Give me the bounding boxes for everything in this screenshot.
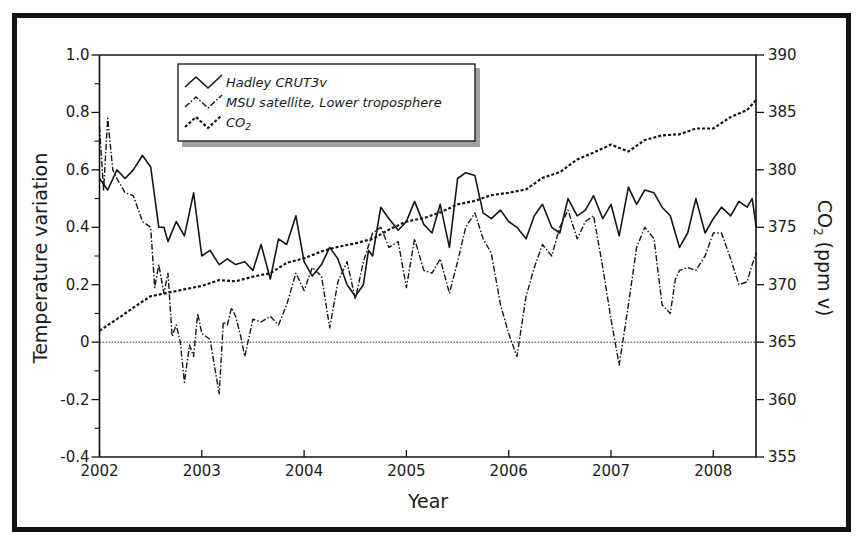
y2-tick-label: 360 [768,391,797,409]
y2-label-subscript: 2 [811,228,825,236]
y-tick-label: 0 [80,333,90,351]
y-tick-label: 0.8 [66,103,90,121]
legend: Hadley CRUT3vMSU satellite, Lower tropos… [178,64,475,141]
x-tick-label: 2006 [490,462,528,480]
y-tick-label: 0.6 [66,161,90,179]
x-tick-label: 2004 [285,462,323,480]
chart: -0.4-0.200.20.40.60.81.03553603653703753… [0,0,860,544]
legend-label: Hadley CRUT3v [226,75,327,90]
y2-label-units: (ppm v) [814,236,836,317]
y2-tick-label: 385 [768,103,797,121]
series-msu-satellite-lower-troposphere [100,118,757,394]
x-tick-label: 2003 [183,462,221,480]
y2-tick-label: 370 [768,276,797,294]
x-tick-label: 2007 [592,462,630,480]
x-axis-title: Year [407,490,448,512]
y-tick-label: 0.2 [66,276,90,294]
x-tick-label: 2005 [387,462,425,480]
y-axis-title: Temperature variation [29,153,51,364]
y2-tick-label: 390 [768,46,797,64]
y-tick-label: 0.4 [66,218,90,236]
legend-label: MSU satellite, Lower troposphere [226,95,442,110]
y2-axis-title: CO2 (ppm v) [811,200,836,317]
y2-tick-label: 365 [768,333,797,351]
x-tick-label: 2002 [80,462,118,480]
legend-label-subscript: 2 [245,122,251,132]
x-tick-label: 2008 [694,462,732,480]
y-tick-label: 1.0 [66,46,90,64]
y2-tick-label: 380 [768,161,797,179]
y2-axis-title-text: CO2 (ppm v) [811,200,836,317]
y-tick-label: -0.2 [60,391,89,409]
y2-tick-label: 375 [768,218,797,236]
y2-tick-label: 355 [768,448,797,466]
